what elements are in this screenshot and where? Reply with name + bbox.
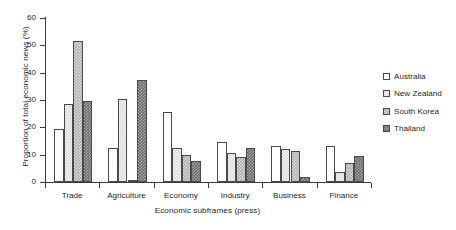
y-tick-label: 60 [0, 13, 36, 22]
x-tick-label-business: Business [262, 191, 316, 200]
legend-label: Thailand [394, 124, 425, 133]
bar-trade-australia [54, 129, 64, 182]
bar-trade-new-zealand [64, 104, 74, 182]
y-tick [40, 73, 45, 74]
y-tick-label: 50 [0, 40, 36, 49]
legend-swatch-icon [383, 90, 390, 97]
bar-trade-south-korea [73, 41, 83, 182]
y-tick [40, 127, 45, 128]
bar-finance-australia [326, 146, 336, 182]
x-tick [262, 183, 263, 188]
x-tick [208, 183, 209, 188]
x-tick-label-finance: Finance [317, 191, 371, 200]
y-tick [40, 45, 45, 46]
bar-economy-thailand [191, 161, 201, 182]
bar-agriculture-south-korea [128, 180, 138, 182]
y-tick-label: 10 [0, 150, 36, 159]
bar-agriculture-new-zealand [118, 99, 128, 182]
y-tick-label: 40 [0, 68, 36, 77]
x-tick [317, 183, 318, 188]
bar-finance-thailand [354, 156, 364, 182]
legend-item-south-korea[interactable]: South Korea [383, 104, 442, 118]
x-tick [371, 183, 372, 188]
y-tick [40, 100, 45, 101]
y-tick [40, 155, 45, 156]
x-tick-label-trade: Trade [45, 191, 99, 200]
x-tick [154, 183, 155, 188]
bar-chart: Proportion of total economic news (%) 01… [0, 0, 456, 230]
bar-business-australia [271, 146, 281, 182]
legend-item-new-zealand[interactable]: New Zealand [383, 87, 442, 101]
bar-economy-south-korea [182, 155, 192, 182]
bar-finance-south-korea [345, 163, 355, 182]
legend: AustraliaNew ZealandSouth KoreaThailand [383, 69, 442, 139]
x-tick-label-economy: Economy [154, 191, 208, 200]
bar-economy-new-zealand [172, 148, 182, 182]
y-tick [40, 18, 45, 19]
legend-item-thailand[interactable]: Thailand [383, 122, 442, 136]
x-tick [45, 183, 46, 188]
legend-item-australia[interactable]: Australia [383, 69, 442, 83]
legend-swatch-icon [383, 73, 390, 80]
bar-finance-new-zealand [335, 172, 345, 182]
x-tick [99, 183, 100, 188]
legend-swatch-icon [383, 108, 390, 115]
x-axis-title: Economic subframes (press) [45, 206, 370, 215]
bar-business-thailand [300, 177, 310, 182]
legend-label: South Korea [394, 107, 439, 116]
bar-industry-south-korea [236, 157, 246, 182]
bar-agriculture-australia [108, 148, 118, 182]
bar-agriculture-thailand [137, 80, 147, 183]
y-tick-label: 30 [0, 95, 36, 104]
bar-business-new-zealand [281, 149, 291, 182]
legend-label: New Zealand [394, 89, 442, 98]
bar-industry-thailand [246, 148, 256, 182]
x-tick-label-industry: Industry [208, 191, 262, 200]
y-tick-label: 20 [0, 122, 36, 131]
bar-industry-australia [217, 142, 227, 182]
y-tick-label: 0 [0, 177, 36, 186]
bar-economy-australia [163, 112, 173, 182]
bar-trade-thailand [83, 101, 93, 182]
y-axis-line [45, 17, 46, 183]
bar-business-south-korea [291, 151, 301, 182]
bar-industry-new-zealand [227, 153, 237, 182]
legend-swatch-icon [383, 125, 390, 132]
legend-label: Australia [394, 72, 426, 81]
x-tick-label-agriculture: Agriculture [99, 191, 153, 200]
